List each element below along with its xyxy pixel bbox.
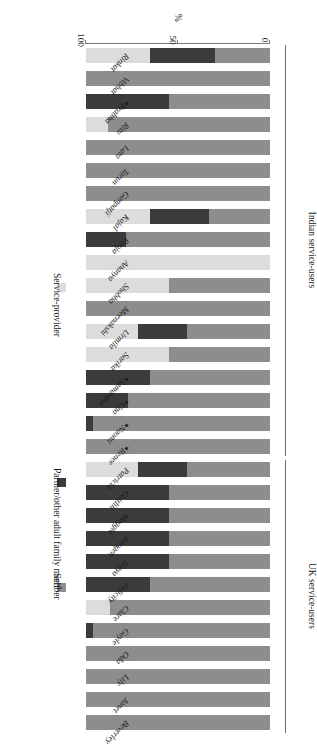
stacked-bar <box>86 715 270 729</box>
bar-segment-partner <box>86 416 93 430</box>
axis-tick-label: 100 <box>76 33 86 47</box>
bar-row <box>86 140 270 154</box>
stacked-bar <box>86 669 270 683</box>
bar-segment-partner <box>86 623 93 637</box>
bar-segment-self <box>128 393 270 407</box>
bar-segment-self <box>169 531 270 545</box>
stacked-bar <box>86 186 270 200</box>
stacked-bar <box>86 692 270 706</box>
value-axis <box>86 43 270 44</box>
bar-segment-self <box>169 347 270 361</box>
bar-segment-partner <box>150 48 214 62</box>
bar-segment-self <box>215 48 270 62</box>
group-label-indian: Indian service-users <box>307 212 317 289</box>
bar-segment-self <box>150 577 270 591</box>
axis-tick-label: 50 <box>168 35 178 44</box>
legend-label: Service-provider <box>52 273 62 337</box>
bar-segment-partner <box>138 462 188 476</box>
bar-segment-partner <box>150 209 209 223</box>
bar-segment-self <box>126 232 270 246</box>
bar-segment-self <box>86 163 270 177</box>
bar-segment-self <box>86 646 270 660</box>
stacked-bar <box>86 623 270 637</box>
bar-segment-self <box>169 508 270 522</box>
bar-row <box>86 94 270 108</box>
bar-segment-provider <box>86 255 270 269</box>
bar-segment-self <box>187 324 270 338</box>
bar-segment-self <box>187 462 270 476</box>
bar-segment-self <box>209 209 270 223</box>
axis-tick-label: 0 <box>260 38 270 43</box>
legend-label: Partner/other adult family member <box>52 468 62 600</box>
bar-segment-self <box>86 692 270 706</box>
bar-segment-self <box>110 600 270 614</box>
stacked-bar <box>86 232 270 246</box>
bar-segment-self <box>169 554 270 568</box>
stacked-bar <box>86 71 270 85</box>
bar-segment-provider <box>86 600 110 614</box>
value-axis-title: % <box>173 14 183 22</box>
bar-row <box>86 163 270 177</box>
bar-segment-self <box>108 117 270 131</box>
group-bracket-indian: Indian service-users <box>272 45 312 456</box>
stacked-bar <box>86 370 270 384</box>
bar-segment-self <box>150 370 270 384</box>
stacked-bar <box>86 646 270 660</box>
bar-row <box>86 71 270 85</box>
stacked-bar <box>86 140 270 154</box>
bar-segment-self <box>86 71 270 85</box>
stacked-bar <box>86 416 270 430</box>
group-rule-uk <box>285 460 286 733</box>
bar-segment-self <box>86 140 270 154</box>
stacked-bar <box>86 255 270 269</box>
bar-segment-self <box>169 94 270 108</box>
bar-segment-self <box>169 485 270 499</box>
bar-row <box>86 646 270 660</box>
stacked-bar <box>86 94 270 108</box>
stacked-bar <box>86 163 270 177</box>
bar-row <box>86 715 270 729</box>
bar-row <box>86 623 270 637</box>
bar-segment-partner <box>138 324 188 338</box>
group-label-uk: UK service-users <box>307 564 317 630</box>
group-bracket-uk: UK service-users <box>272 460 312 733</box>
bar-row <box>86 577 270 591</box>
bar-segment-self <box>86 715 270 729</box>
bar-row <box>86 186 270 200</box>
bar-row <box>86 48 270 62</box>
bar-row <box>86 370 270 384</box>
bar-row <box>86 416 270 430</box>
bar-segment-self <box>86 669 270 683</box>
stacked-bar <box>86 577 270 591</box>
bar-row <box>86 255 270 269</box>
bar-row <box>86 669 270 683</box>
bar-row <box>86 232 270 246</box>
bar-segment-self <box>86 186 270 200</box>
group-rule-indian <box>285 45 286 456</box>
bar-row <box>86 692 270 706</box>
stacked-bar <box>86 48 270 62</box>
bar-segment-self <box>169 278 270 292</box>
